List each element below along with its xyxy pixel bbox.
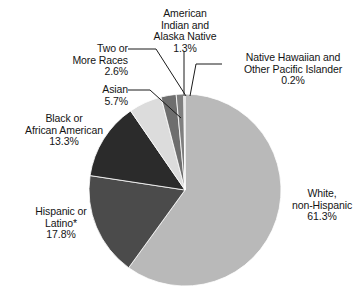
leader-line-native-hawaiian (190, 64, 222, 96)
label-value: 17.8% (8, 229, 114, 241)
label-line: White, (282, 188, 362, 200)
label-value: 1.3% (136, 43, 234, 55)
label-line: Asian (44, 84, 128, 96)
label-line: Hispanic or (8, 206, 114, 218)
slice-label-hispanic-latino: Hispanic or Latino* 17.8% (8, 206, 114, 241)
label-line: Two or (44, 43, 128, 55)
slice-label-black-african-american: Black or African American 13.3% (2, 113, 126, 148)
slice-label-native-hawaiian-pacific-islander: Native Hawaiian and Other Pacific Island… (224, 52, 362, 87)
slice-label-white-non-hispanic: White, non-Hispanic 61.3% (282, 188, 362, 223)
label-line: Native Hawaiian and (224, 52, 362, 64)
label-value: 0.2% (224, 75, 362, 87)
label-line: Black or (2, 113, 126, 125)
slice-label-two-or-more-races: Two or More Races 2.6% (44, 43, 128, 78)
label-value: 2.6% (44, 66, 128, 78)
slice-label-american-indian-alaska-native: American Indian and Alaska Native 1.3% (136, 8, 234, 54)
label-value: 5.7% (44, 96, 128, 108)
leader-line-two-or-more (128, 49, 186, 96)
label-value: 61.3% (282, 211, 362, 223)
pie-chart: American Indian and Alaska Native 1.3% N… (0, 0, 364, 295)
label-line: American (136, 8, 234, 20)
label-value: 13.3% (2, 136, 126, 148)
slice-label-asian: Asian 5.7% (44, 84, 128, 107)
